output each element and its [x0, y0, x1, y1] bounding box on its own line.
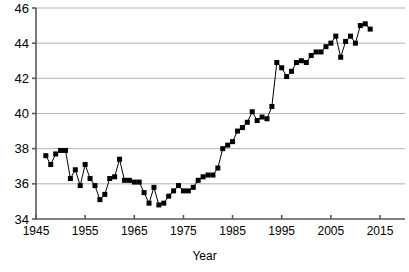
data-point-marker: [196, 178, 201, 183]
data-point-marker: [68, 176, 73, 181]
data-point-marker: [255, 118, 260, 123]
data-point-marker: [299, 58, 304, 63]
y-tick-label: 44: [0, 37, 29, 50]
data-point-marker: [102, 192, 107, 197]
data-point-marker: [78, 183, 83, 188]
data-point-marker: [240, 125, 245, 130]
data-point-marker: [304, 60, 309, 65]
data-point-marker: [97, 197, 102, 202]
chart-figure: 34363840424446 1945195519651975198519952…: [0, 0, 409, 272]
y-tick-label: 36: [0, 177, 29, 190]
data-point-marker: [122, 178, 127, 183]
data-point-marker: [314, 49, 319, 54]
data-point-marker: [151, 185, 156, 190]
data-point-marker: [191, 185, 196, 190]
y-tick-label: 40: [0, 107, 29, 120]
data-point-marker: [63, 148, 68, 153]
data-point-marker: [363, 21, 368, 26]
y-tick-label: 46: [0, 2, 29, 15]
data-point-marker: [274, 60, 279, 65]
data-point-marker: [48, 162, 53, 167]
data-point-marker: [368, 27, 373, 32]
data-point-marker: [260, 115, 265, 120]
data-point-marker: [147, 201, 152, 206]
data-point-marker: [353, 41, 358, 46]
data-point-marker: [230, 139, 235, 144]
data-point-marker: [142, 190, 147, 195]
data-point-marker: [112, 174, 117, 179]
data-point-marker: [245, 120, 250, 125]
data-point-marker: [294, 60, 299, 65]
data-point-marker: [53, 151, 58, 156]
y-tick-label: 38: [0, 142, 29, 155]
data-point-marker: [171, 188, 176, 193]
data-point-marker: [117, 157, 122, 162]
data-point-marker: [215, 166, 220, 171]
y-tick-label: 42: [0, 72, 29, 85]
data-point-marker: [338, 55, 343, 60]
data-point-marker: [220, 146, 225, 151]
data-point-marker: [319, 49, 324, 54]
data-point-marker: [269, 104, 274, 109]
data-point-marker: [250, 109, 255, 114]
data-point-marker: [279, 65, 284, 70]
data-point-marker: [176, 183, 181, 188]
data-point-marker: [348, 34, 353, 39]
data-point-marker: [161, 201, 166, 206]
data-point-marker: [323, 44, 328, 49]
data-point-marker: [107, 176, 112, 181]
x-tick-label: 2015: [350, 225, 409, 237]
data-point-marker: [58, 148, 63, 153]
data-point-marker: [264, 116, 269, 121]
data-point-marker: [137, 180, 142, 185]
data-point-marker: [284, 74, 289, 79]
data-point-marker: [210, 173, 215, 178]
data-point-marker: [83, 162, 88, 167]
data-point-marker: [358, 23, 363, 28]
data-point-marker: [235, 129, 240, 134]
data-point-marker: [88, 176, 93, 181]
data-point-marker: [156, 202, 161, 207]
data-point-marker: [73, 167, 78, 172]
data-point-marker: [186, 188, 191, 193]
data-point-marker: [206, 173, 211, 178]
data-point-marker: [333, 34, 338, 39]
data-point-marker: [92, 183, 97, 188]
data-point-marker: [328, 41, 333, 46]
data-point-marker: [225, 143, 230, 148]
data-point-marker: [289, 69, 294, 74]
data-point-marker: [201, 174, 206, 179]
data-point-marker: [132, 180, 137, 185]
data-point-marker: [343, 39, 348, 44]
data-point-marker: [309, 53, 314, 58]
x-axis-title: Year: [0, 250, 409, 262]
data-point-marker: [127, 178, 132, 183]
data-point-marker: [43, 153, 48, 158]
data-point-marker: [181, 188, 186, 193]
data-point-marker: [166, 194, 171, 199]
